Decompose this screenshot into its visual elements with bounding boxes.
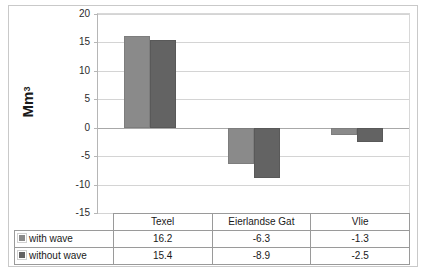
legend-label-with-wave: with wave bbox=[29, 233, 73, 244]
table-header-eierlandse-gat: Eierlandse Gat bbox=[212, 214, 311, 231]
y-tick-mark-5 bbox=[94, 99, 98, 100]
plot-area bbox=[97, 13, 410, 213]
bar-with-wave-vlie bbox=[331, 128, 357, 135]
cell-with-wave-eierlandse-gat: -6.3 bbox=[212, 231, 311, 248]
y-tick-label-15: 15 bbox=[50, 36, 90, 47]
bar-without-wave-texel bbox=[150, 40, 176, 128]
cell-with-wave-vlie: -1.3 bbox=[311, 231, 410, 248]
table-corner-cell bbox=[15, 214, 114, 231]
y-tick-mark--5 bbox=[94, 156, 98, 157]
y-tick-label-0: 0 bbox=[50, 121, 90, 132]
y-tick-label-20: 20 bbox=[50, 8, 90, 19]
bar-without-wave-vlie bbox=[357, 128, 383, 142]
legend-cell-with-wave: with wave bbox=[15, 231, 114, 248]
y-tick-label-5: 5 bbox=[50, 93, 90, 104]
cell-without-wave-texel: 15.4 bbox=[113, 248, 212, 265]
bar-without-wave-eierlandse-gat bbox=[254, 128, 280, 179]
cell-without-wave-vlie: -2.5 bbox=[311, 248, 410, 265]
cell-with-wave-texel: 16.2 bbox=[113, 231, 212, 248]
table-header-row: Texel Eierlandse Gat Vlie bbox=[15, 214, 410, 231]
table-header-vlie: Vlie bbox=[311, 214, 410, 231]
y-tick-label-10: 10 bbox=[50, 64, 90, 75]
table-header-texel: Texel bbox=[113, 214, 212, 231]
bar-with-wave-eierlandse-gat bbox=[228, 128, 254, 164]
y-tick-mark-20 bbox=[94, 14, 98, 15]
gridline--10 bbox=[98, 185, 409, 186]
bar-with-wave-texel bbox=[124, 36, 150, 128]
data-table-body: Texel Eierlandse Gat Vlie with wave 16.2… bbox=[15, 214, 410, 265]
y-tick-mark-15 bbox=[94, 42, 98, 43]
gridline-20 bbox=[98, 14, 409, 15]
legend-swatch-light-icon bbox=[18, 234, 26, 242]
chart-figure: Mm3 20151050-5-10-15 Texel Eierlandse Ga… bbox=[0, 0, 426, 274]
y-tick-mark-0 bbox=[94, 128, 98, 129]
y-tick-label--10: -10 bbox=[50, 178, 90, 189]
y-tick-mark-10 bbox=[94, 71, 98, 72]
legend-swatch-dark-icon bbox=[18, 251, 26, 259]
y-tick-mark--10 bbox=[94, 185, 98, 186]
legend-label-without-wave: without wave bbox=[29, 250, 87, 261]
table-row: without wave 15.4 -8.9 -2.5 bbox=[15, 248, 410, 265]
data-table: Texel Eierlandse Gat Vlie with wave 16.2… bbox=[14, 213, 410, 265]
legend-cell-without-wave: without wave bbox=[15, 248, 114, 265]
cell-without-wave-eierlandse-gat: -8.9 bbox=[212, 248, 311, 265]
table-row: with wave 16.2 -6.3 -1.3 bbox=[15, 231, 410, 248]
y-tick-label--5: -5 bbox=[50, 150, 90, 161]
